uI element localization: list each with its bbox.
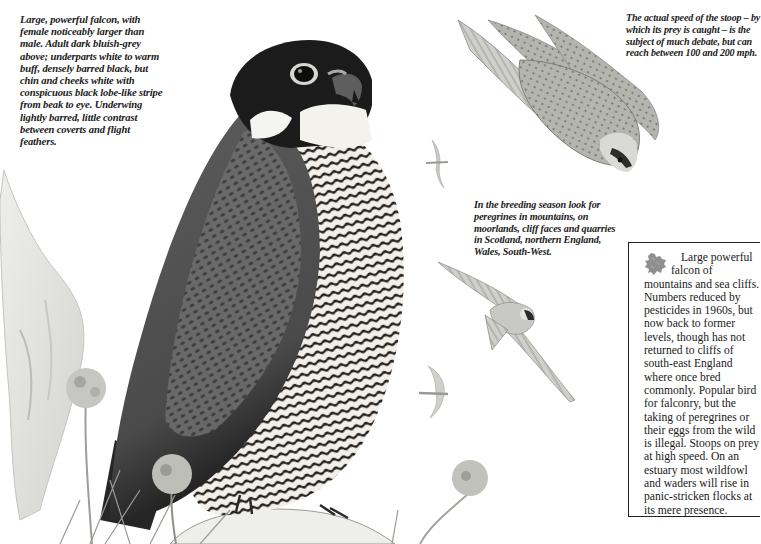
breeding-text: In the breeding season look for peregrin… [474,199,624,258]
info-box-text: Large powerful falcon of mountains and s… [644,251,761,517]
flying-peregrine-illustration [438,262,575,402]
info-body: mountains and sea cliffs. Numbers reduce… [644,278,759,517]
britain-map-icon [644,252,667,276]
distant-falcon-silhouette [426,140,448,188]
speed-text: The actual speed of the stoop – by which… [626,12,761,59]
rock-perch [170,509,395,544]
description-text: Large, powerful falcon, with female noti… [20,14,168,148]
info-lead: Large powerful falcon of [671,251,753,277]
field-guide-page: Large, powerful falcon, with female noti… [0,0,761,544]
species-description-caption: Large, powerful falcon, with female noti… [20,14,168,148]
stoop-speed-caption: The actual speed of the stoop – by which… [626,12,761,59]
distant-falcon-silhouette [419,366,448,418]
cliff-background [0,170,84,520]
species-info-box: Large powerful falcon of mountains and s… [628,242,760,517]
breeding-habitat-caption: In the breeding season look for peregrin… [474,199,624,258]
